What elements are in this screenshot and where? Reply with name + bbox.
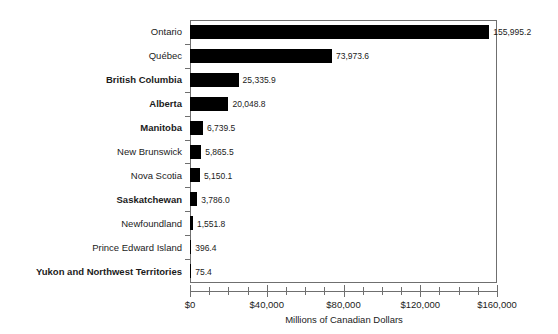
category-tick (185, 235, 190, 236)
category-label: New Brunswick (0, 146, 186, 157)
category-tick (185, 68, 190, 69)
x-tick-major (190, 292, 191, 297)
x-tick-upper (420, 285, 421, 291)
x-tick-major (267, 292, 268, 297)
x-tick-upper (286, 287, 287, 291)
category-tick (185, 259, 190, 260)
bar (190, 97, 228, 111)
category-tick (185, 140, 190, 141)
bar-value-label: 6,739.5 (207, 123, 235, 133)
x-tick-upper (478, 287, 479, 291)
bar (190, 240, 191, 254)
x-tick-label: $120,000 (400, 299, 440, 310)
x-tick-minor (324, 292, 325, 295)
category-tick (185, 92, 190, 93)
x-tick-upper (439, 287, 440, 291)
x-axis-title: Millions of Canadian Dollars (190, 314, 498, 325)
bar-value-label: 155,995.2 (493, 27, 531, 37)
x-tick-minor (228, 292, 229, 295)
bar-value-label: 5,150.1 (204, 171, 232, 181)
x-tick-label: $0 (185, 299, 196, 310)
category-label: Saskatchewan (0, 194, 186, 205)
bar-value-label: 1,551.8 (197, 219, 225, 229)
x-tick-upper (228, 287, 229, 291)
bar-value-label: 73,973.6 (336, 51, 369, 61)
x-tick-major (497, 292, 498, 297)
category-label: Manitoba (0, 122, 186, 133)
x-tick-upper (209, 287, 210, 291)
bar-value-label: 75.4 (195, 267, 212, 277)
x-tick-minor (209, 292, 210, 295)
category-label: Prince Edward Island (0, 242, 186, 253)
x-tick-upper (459, 287, 460, 291)
bar (190, 168, 200, 182)
bar (190, 192, 197, 206)
x-tick-upper (401, 287, 402, 291)
x-tick-minor (286, 292, 287, 295)
bar (190, 145, 201, 159)
category-tick (185, 187, 190, 188)
category-tick (185, 44, 190, 45)
category-label: Québec (0, 50, 186, 61)
bar (190, 264, 191, 278)
bar-value-label: 20,048.8 (232, 99, 265, 109)
bar-value-label: 5,865.5 (205, 147, 233, 157)
x-tick-minor (439, 292, 440, 295)
bars-layer: 155,995.273,973.625,335.920,048.86,739.5… (190, 20, 497, 283)
x-tick-upper (382, 287, 383, 291)
x-tick-minor (248, 292, 249, 295)
x-tick-major (344, 292, 345, 297)
x-tick-minor (401, 292, 402, 295)
bar (190, 73, 239, 87)
bar (190, 216, 193, 230)
x-tick-minor (459, 292, 460, 295)
category-label: Newfoundland (0, 218, 186, 229)
category-label: Nova Scotia (0, 170, 186, 181)
x-tick-upper (267, 285, 268, 291)
category-tick (185, 163, 190, 164)
x-tick-upper (344, 285, 345, 291)
category-label: British Columbia (0, 74, 186, 85)
bar (190, 49, 332, 63)
x-tick-minor (363, 292, 364, 295)
category-label: Alberta (0, 98, 186, 109)
bar-value-label: 3,786.0 (201, 195, 229, 205)
x-tick-minor (382, 292, 383, 295)
x-tick-upper (363, 287, 364, 291)
bar (190, 121, 203, 135)
x-tick-minor (305, 292, 306, 295)
bar-chart: OntarioQuébecBritish ColumbiaAlbertaMani… (0, 0, 558, 334)
x-tick-label: $160,000 (477, 299, 517, 310)
category-label: Ontario (0, 26, 186, 37)
x-tick-label: $40,000 (250, 299, 284, 310)
bar (190, 25, 489, 39)
x-tick-upper (324, 287, 325, 291)
category-tick (185, 116, 190, 117)
category-axis-labels: OntarioQuébecBritish ColumbiaAlbertaMani… (0, 20, 186, 283)
x-tick-upper (497, 285, 498, 291)
x-tick-upper (190, 285, 191, 291)
x-tick-label: $80,000 (326, 299, 360, 310)
category-tick (185, 211, 190, 212)
x-tick-upper (248, 287, 249, 291)
category-label: Yukon and Northwest Territories (0, 266, 186, 277)
bar-value-label: 396.4 (195, 243, 216, 253)
x-tick-major (420, 292, 421, 297)
bar-value-label: 25,335.9 (243, 75, 276, 85)
x-tick-minor (478, 292, 479, 295)
x-tick-upper (305, 287, 306, 291)
